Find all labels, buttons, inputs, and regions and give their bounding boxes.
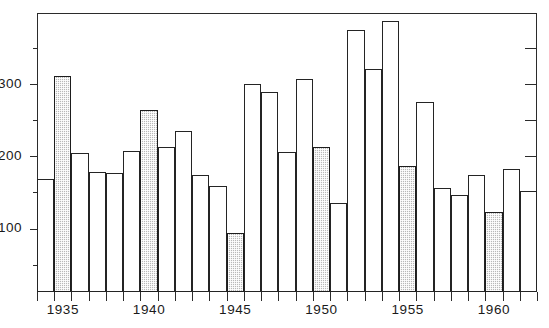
x-axis-tick-1961 — [503, 292, 504, 301]
x-axis-tick-1934 — [37, 292, 38, 301]
x-axis-label-1935: 1935 — [47, 302, 79, 317]
x-axis-tick-1957 — [434, 292, 435, 301]
x-axis-tick-1959 — [468, 292, 469, 301]
bar-1951 — [330, 203, 347, 292]
bar-1955 — [399, 166, 416, 292]
x-axis-tick-1948 — [278, 292, 279, 301]
bar-1944 — [209, 186, 226, 292]
x-axis-tick-1954 — [382, 292, 383, 301]
y-axis-label-300: 300 — [0, 76, 22, 91]
bar-1956 — [416, 102, 433, 292]
bar-1961 — [503, 169, 520, 292]
bar-1941 — [158, 147, 175, 292]
bar-1952 — [347, 30, 364, 292]
bar-1957 — [434, 188, 451, 292]
bar-1953 — [365, 69, 382, 292]
y-axis-label-200: 200 — [0, 148, 22, 163]
bar-1936 — [71, 153, 88, 292]
bar-1962 — [520, 191, 537, 292]
x-axis-tick-1962 — [520, 292, 521, 301]
x-axis-tick-1949 — [296, 292, 297, 301]
x-axis-tick-1940 — [140, 292, 141, 301]
bar-1960 — [485, 212, 502, 292]
x-axis-label-1960: 1960 — [478, 302, 510, 317]
x-axis-tick-1941 — [158, 292, 159, 301]
x-axis-label-1945: 1945 — [219, 302, 251, 317]
x-axis-tick-1953 — [365, 292, 366, 301]
bars-container — [37, 13, 537, 292]
bar-1954 — [382, 21, 399, 292]
x-axis-tick-1958 — [451, 292, 452, 301]
bar-1940 — [140, 110, 157, 292]
x-axis-tick-1937 — [89, 292, 90, 301]
x-axis-tick-1936 — [71, 292, 72, 301]
bar-1943 — [192, 175, 209, 292]
x-axis-tick-1942 — [175, 292, 176, 301]
bar-1935 — [54, 76, 71, 292]
x-axis-label-1950: 1950 — [305, 302, 337, 317]
x-axis-tick-1956 — [416, 292, 417, 301]
bar-1948 — [278, 152, 295, 292]
bar-1959 — [468, 175, 485, 293]
bar-1945 — [227, 233, 244, 292]
x-axis-tick-1944 — [209, 292, 210, 301]
y-axis-label-100: 100 — [0, 220, 22, 235]
bar-1938 — [106, 173, 123, 292]
x-axis-tick-1935 — [54, 292, 55, 301]
bar-1939 — [123, 151, 140, 292]
bar-1942 — [175, 131, 192, 292]
bar-1949 — [296, 79, 313, 292]
x-axis-tick-1960 — [485, 292, 486, 301]
bar-1958 — [451, 195, 468, 292]
bar-1950 — [313, 147, 330, 292]
x-axis-label-1940: 1940 — [133, 302, 165, 317]
x-axis-tick-1939 — [123, 292, 124, 301]
x-axis-tick-1945 — [227, 292, 228, 301]
x-axis-tick-1951 — [330, 292, 331, 301]
bar-1937 — [89, 172, 106, 292]
x-axis-label-1955: 1955 — [391, 302, 423, 317]
x-axis-tick-1950 — [313, 292, 314, 301]
x-axis-tick-1952 — [347, 292, 348, 301]
x-axis-tick-1946 — [244, 292, 245, 301]
bar-1934 — [37, 179, 54, 292]
x-axis-tick-1955 — [399, 292, 400, 301]
x-axis-tick-1943 — [192, 292, 193, 301]
bar-1946 — [244, 84, 261, 292]
bar-1947 — [261, 92, 278, 292]
x-axis-tick-1938 — [106, 292, 107, 301]
bar-chart: 300200100 193519401945195019551960 — [0, 0, 549, 328]
x-axis-tick-1963 — [537, 292, 538, 301]
x-axis-tick-1947 — [261, 292, 262, 301]
y-axis-labels: 300200100 — [0, 0, 30, 328]
